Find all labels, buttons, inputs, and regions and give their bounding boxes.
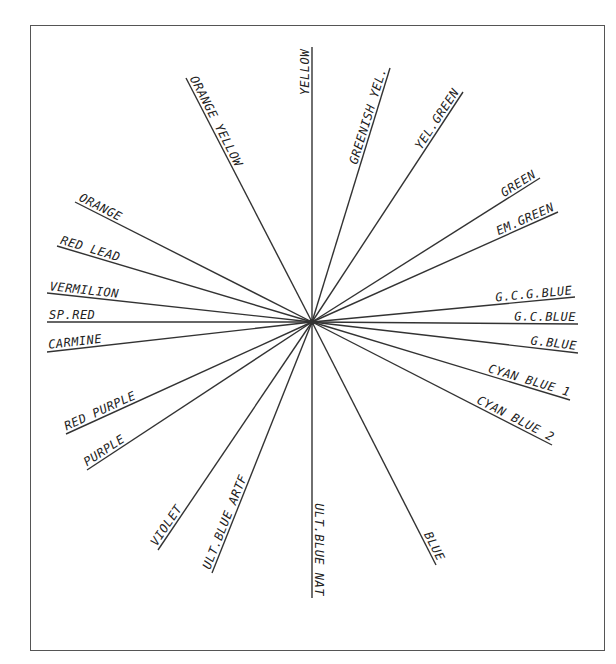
ray-label: YELLOW <box>298 48 312 96</box>
ray-label: RED LEAD <box>59 233 122 264</box>
ray-label: VIOLET <box>148 502 186 548</box>
ray-label: YEL.GREEN <box>412 86 462 152</box>
ray-label: BLUE <box>421 529 448 563</box>
ray-label: ORANGE YELLOW <box>187 73 246 170</box>
ray-label: RED PURPLE <box>62 388 138 433</box>
ray-label: EM.GREEN <box>494 200 556 238</box>
center-point <box>309 319 315 325</box>
ray-label: CARMINE <box>47 332 103 352</box>
ray-line <box>312 322 436 565</box>
ray-line <box>186 78 312 322</box>
color-circle-diagram: YELLOWGREENISH YEL.YEL.GREENGREENEM.GREE… <box>0 0 616 664</box>
ray-label: ULT.BLUE ARTF <box>200 472 250 571</box>
ray-label: PURPLE <box>81 432 128 469</box>
ray-label: CYAN BLUE 2 <box>475 393 557 444</box>
ray-label: SP.RED <box>49 308 95 322</box>
ray-label: CYAN BLUE 1 <box>487 361 572 399</box>
ray-label: ULT.BLUE NAT <box>312 503 326 596</box>
ray-label: G.C.BLUE <box>514 310 576 324</box>
ray-line <box>66 322 312 434</box>
ray-label: GREENISH YEL. <box>347 66 390 166</box>
ray-label: G.BLUE <box>530 333 578 352</box>
